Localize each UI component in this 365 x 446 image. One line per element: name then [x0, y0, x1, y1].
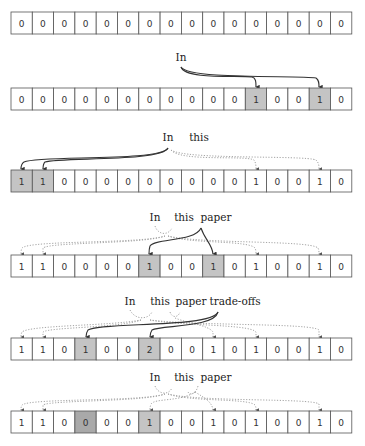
word-label: paper [201, 371, 233, 383]
counter-value: 0 [296, 177, 302, 187]
counter-row-initial: 0000000000000000 [11, 12, 352, 34]
counter-row-insert-trade-offs: 1101002001010010 [11, 338, 352, 360]
counting-bloom-filter-diagram: 0000000000000000000000000001001011000000… [0, 0, 365, 446]
counter-value: 0 [274, 262, 280, 272]
counter-value: 0 [61, 177, 67, 187]
counter-value: 1 [83, 345, 89, 355]
counter-value: 0 [83, 262, 89, 272]
counter-value: 1 [253, 177, 259, 187]
counter-value: 0 [232, 418, 238, 428]
counter-value: 0 [168, 177, 174, 187]
counter-value: 0 [232, 345, 238, 355]
counter-value: 0 [211, 19, 217, 29]
counter-value: 0 [104, 19, 110, 29]
counter-value: 0 [19, 19, 25, 29]
word-label: this [150, 295, 170, 307]
counter-value: 0 [296, 345, 302, 355]
counter-value: 0 [61, 345, 67, 355]
counter-value: 0 [40, 95, 46, 105]
counter-value: 0 [125, 345, 131, 355]
counter-value: 0 [147, 19, 153, 29]
counter-value: 0 [253, 19, 259, 29]
counter-value: 1 [317, 418, 323, 428]
word-label: paper [176, 295, 208, 307]
counter-value: 0 [61, 95, 67, 105]
counter-value: 0 [104, 345, 110, 355]
counter-value: 0 [168, 418, 174, 428]
counter-value: 0 [83, 95, 89, 105]
counter-value: 0 [83, 19, 89, 29]
counter-value: 1 [40, 345, 46, 355]
counter-value: 1 [211, 418, 217, 428]
counter-value: 0 [104, 262, 110, 272]
counter-value: 0 [338, 19, 344, 29]
word-label: this [189, 131, 209, 143]
counter-value: 0 [168, 345, 174, 355]
counter-value: 0 [338, 418, 344, 428]
counter-value: 0 [274, 418, 280, 428]
counter-value: 0 [317, 19, 323, 29]
counter-value: 0 [189, 95, 195, 105]
counter-value: 0 [189, 19, 195, 29]
counter-value: 0 [125, 177, 131, 187]
counter-value: 2 [147, 345, 153, 355]
arrows-row-2 [181, 67, 319, 87]
counter-value: 0 [338, 345, 344, 355]
counter-value: 0 [61, 19, 67, 29]
word-label: this [174, 211, 194, 223]
counter-value: 0 [296, 262, 302, 272]
counter-value: 1 [19, 177, 25, 187]
counter-value: 0 [40, 19, 46, 29]
counter-value: 1 [147, 418, 153, 428]
counter-value: 0 [274, 177, 280, 187]
counter-value: 0 [274, 345, 280, 355]
counter-value: 1 [40, 262, 46, 272]
counter-value: 0 [19, 95, 25, 105]
counter-value: 1 [317, 177, 323, 187]
counter-value: 0 [104, 418, 110, 428]
counter-value: 0 [147, 95, 153, 105]
counter-value: 1 [253, 345, 259, 355]
counter-value: 0 [61, 418, 67, 428]
counter-value: 1 [40, 418, 46, 428]
counter-value: 0 [189, 262, 195, 272]
counter-value: 0 [296, 19, 302, 29]
word-label: In [150, 211, 161, 223]
counter-value: 0 [189, 345, 195, 355]
counter-value: 1 [317, 262, 323, 272]
counter-value: 0 [189, 177, 195, 187]
counter-value: 0 [274, 95, 280, 105]
counter-value: 1 [253, 262, 259, 272]
word-label: this [174, 371, 194, 383]
counter-value: 0 [189, 418, 195, 428]
counter-value: 0 [125, 418, 131, 428]
counter-value: 1 [19, 345, 25, 355]
counter-value: 0 [274, 19, 280, 29]
counter-value: 0 [104, 95, 110, 105]
counter-value: 0 [83, 418, 89, 428]
word-label: paper [201, 211, 233, 223]
counter-value: 0 [83, 177, 89, 187]
counter-value: 1 [253, 95, 259, 105]
counter-value: 0 [232, 95, 238, 105]
counter-value: 0 [104, 177, 110, 187]
counter-value: 1 [19, 262, 25, 272]
counter-value: 0 [232, 177, 238, 187]
counter-value: 1 [253, 418, 259, 428]
counter-row-insert-In: 0000000000010010 [11, 88, 352, 110]
counter-value: 0 [147, 177, 153, 187]
counter-row-insert-this: 1100000000010010 [11, 170, 352, 192]
counter-value: 0 [232, 262, 238, 272]
counter-value: 0 [296, 418, 302, 428]
word-label: In [125, 295, 136, 307]
counter-value: 0 [211, 177, 217, 187]
arrows-row-3 [21, 148, 319, 169]
counter-value: 0 [338, 262, 344, 272]
counter-value: 0 [232, 19, 238, 29]
counter-value: 0 [125, 262, 131, 272]
counter-value: 1 [19, 418, 25, 428]
counter-value: 0 [211, 95, 217, 105]
counter-value: 0 [61, 262, 67, 272]
counter-value: 1 [211, 262, 217, 272]
counter-row-insert-paper: 1100001001010010 [11, 255, 352, 277]
